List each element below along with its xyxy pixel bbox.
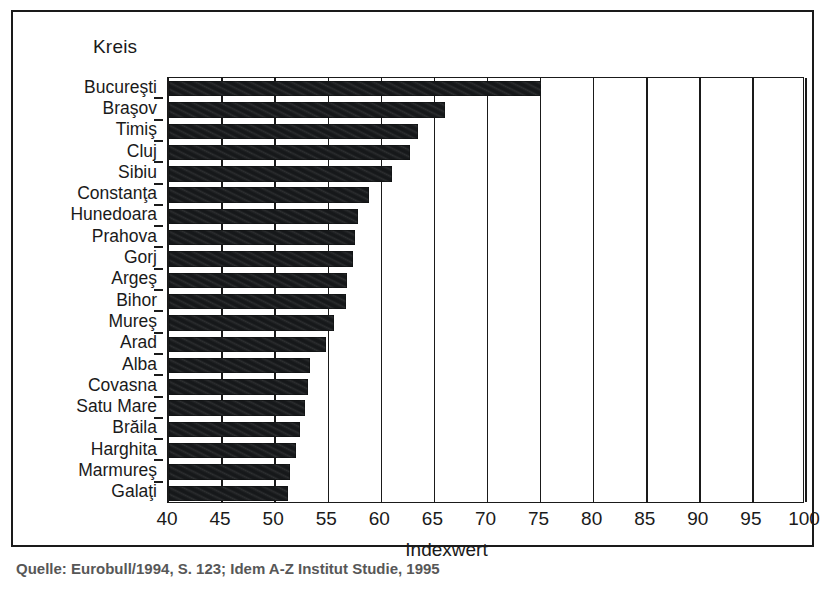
y-axis-label: Gorj <box>124 249 157 267</box>
bar-row <box>169 273 803 288</box>
bar-row <box>169 337 803 352</box>
x-axis-tick-label: 60 <box>369 509 390 528</box>
y-axis-label: Covasna <box>88 377 157 395</box>
y-axis-label: Arad <box>120 334 157 352</box>
x-axis-tick-label: 90 <box>687 509 708 528</box>
y-axis-label: Timiş <box>116 121 157 139</box>
y-axis-label: Cluj <box>127 143 157 161</box>
y-axis-label: Hunedoara <box>70 206 157 224</box>
x-axis-title: Indexwert <box>13 539 827 561</box>
bar <box>169 102 445 117</box>
bar <box>169 187 369 202</box>
bar <box>169 166 392 181</box>
x-axis-tick-label: 95 <box>740 509 761 528</box>
bar-row <box>169 464 803 479</box>
x-axis-tick-label: 55 <box>316 509 337 528</box>
bar <box>169 443 296 458</box>
bar-row <box>169 81 803 96</box>
bar <box>169 294 346 309</box>
y-axis-label: Sibiu <box>118 164 157 182</box>
y-axis-label: Argeş <box>111 270 157 288</box>
x-axis-tick-label: 85 <box>634 509 655 528</box>
bar <box>169 124 418 139</box>
y-axis-label: Galaţi <box>111 483 157 501</box>
bar <box>169 251 353 266</box>
x-axis-tick-label: 50 <box>263 509 284 528</box>
bar <box>169 273 347 288</box>
x-axis-tick-label: 100 <box>788 509 820 528</box>
x-axis-tick-label: 75 <box>528 509 549 528</box>
x-axis-tick-label: 70 <box>475 509 496 528</box>
y-axis-label: Marmureş <box>78 462 157 480</box>
x-axis-tick-labels: 404550556065707580859095100 <box>13 509 827 539</box>
x-axis-title-text: Indexwert <box>405 539 487 560</box>
bar-row <box>169 443 803 458</box>
x-axis-tick-label: 40 <box>156 509 177 528</box>
chart-figure-frame: Kreis BucureştiBraşovTimişClujSibiuConst… <box>11 10 814 547</box>
bar-row <box>169 230 803 245</box>
x-axis-tick-label: 45 <box>210 509 231 528</box>
y-axis-label: Constanţa <box>77 185 157 203</box>
bar <box>169 358 310 373</box>
y-axis-label: Mureş <box>108 313 157 331</box>
y-axis-label: Prahova <box>92 228 157 246</box>
y-axis-label: Alba <box>122 356 157 374</box>
bar <box>169 486 288 501</box>
y-axis-label: Satu Mare <box>76 398 157 416</box>
bar <box>169 315 334 330</box>
bar-row <box>169 400 803 415</box>
bar-row <box>169 486 803 501</box>
bar-row <box>169 145 803 160</box>
bar-row <box>169 294 803 309</box>
bar-row <box>169 166 803 181</box>
bar <box>169 209 358 224</box>
bar <box>169 422 300 437</box>
bar <box>169 379 308 394</box>
x-axis-tick-label: 80 <box>581 509 602 528</box>
y-axis-label: Harghita <box>91 441 157 459</box>
bar-row <box>169 315 803 330</box>
x-axis-tick-label: 65 <box>422 509 443 528</box>
bar-row <box>169 209 803 224</box>
gridline <box>805 78 807 502</box>
y-axis-label: Bihor <box>116 292 157 310</box>
bar-row <box>169 102 803 117</box>
bar-row <box>169 251 803 266</box>
bar <box>169 230 355 245</box>
bar-row <box>169 124 803 139</box>
bars-layer <box>169 78 803 502</box>
y-axis-label: Braşov <box>103 100 157 118</box>
bar <box>169 81 541 96</box>
bar <box>169 337 326 352</box>
bar-row <box>169 379 803 394</box>
y-axis-caption: Kreis <box>93 36 137 58</box>
y-axis-category-labels: BucureştiBraşovTimişClujSibiuConstanţaHu… <box>13 77 163 503</box>
y-axis-label: Bucureşti <box>84 79 157 97</box>
bar-row <box>169 422 803 437</box>
plot-area <box>167 77 804 503</box>
source-caption: Quelle: Eurobull/1994, S. 123; Idem A-Z … <box>16 560 806 578</box>
bar <box>169 400 305 415</box>
bar-row <box>169 187 803 202</box>
y-axis-label: Brăila <box>112 419 157 437</box>
bar <box>169 464 290 479</box>
bar <box>169 145 410 160</box>
bar-row <box>169 358 803 373</box>
